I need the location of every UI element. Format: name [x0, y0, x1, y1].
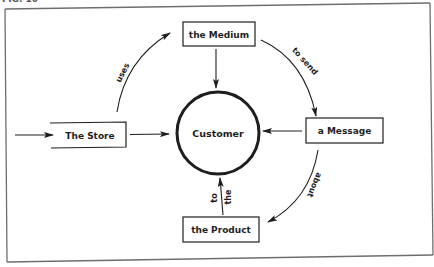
message-label: a Message	[318, 126, 372, 136]
node-medium: the Medium	[183, 22, 255, 46]
edge-label-uses: uses	[114, 61, 132, 84]
figure-caption: FIG. 10	[2, 0, 38, 4]
edge-label-to: to	[210, 193, 219, 203]
edge-label-about: about	[305, 171, 323, 199]
edge-label-the: the	[224, 189, 233, 205]
product-label: the Product	[191, 225, 251, 235]
arrow-store-to-customer	[130, 134, 169, 135]
node-message: a Message	[306, 118, 383, 143]
arrow-product-to-customer	[220, 178, 223, 215]
node-customer: Customer	[177, 92, 259, 174]
node-store: The Store	[50, 122, 126, 148]
customer-label: Customer	[192, 128, 244, 139]
medium-label: the Medium	[189, 30, 249, 40]
store-label: The Store	[65, 131, 114, 141]
node-product: the Product	[183, 217, 259, 242]
diagram-canvas: FIG. 10 Customer The Store the Medium a …	[0, 0, 434, 267]
edge-label-to-send: to send	[290, 46, 319, 77]
arrow-medium-to-send-message	[261, 40, 316, 116]
